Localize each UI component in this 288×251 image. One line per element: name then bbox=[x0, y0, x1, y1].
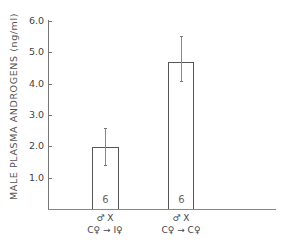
x-category-2: ♂ X C♀ → C♀ bbox=[151, 212, 211, 236]
y-tick bbox=[48, 146, 52, 147]
y-tick-label: 4.0 bbox=[22, 78, 44, 89]
x-category-1-line2: C♀ → I♀ bbox=[75, 224, 135, 236]
error-cap bbox=[180, 36, 183, 37]
y-tick bbox=[48, 178, 52, 179]
y-tick-label: 2.0 bbox=[22, 140, 44, 151]
x-axis bbox=[48, 209, 276, 210]
error-cap bbox=[104, 165, 107, 166]
y-tick-label: 5.0 bbox=[22, 46, 44, 57]
y-tick bbox=[48, 21, 52, 22]
n-label-1: 6 bbox=[92, 194, 119, 205]
x-category-1: ♂ X C♀ → I♀ bbox=[75, 212, 135, 236]
x-category-2-line2: C♀ → C♀ bbox=[151, 224, 211, 236]
x-category-1-line1: ♂ X bbox=[75, 212, 135, 224]
bar-chart: MALE PLASMA ANDROGENS (ng/ml) 1.0 2.0 3.… bbox=[0, 0, 288, 251]
bar-2 bbox=[168, 62, 194, 209]
error-cap bbox=[104, 128, 107, 129]
y-tick-label: 1.0 bbox=[22, 172, 44, 183]
error-bar-1 bbox=[105, 128, 106, 166]
y-tick-label: 3.0 bbox=[22, 109, 44, 120]
y-axis-label: MALE PLASMA ANDROGENS (ng/ml) bbox=[8, 13, 19, 200]
y-tick bbox=[48, 84, 52, 85]
error-cap bbox=[180, 81, 183, 82]
x-category-2-line1: ♂ X bbox=[151, 212, 211, 224]
y-tick bbox=[48, 115, 52, 116]
error-bar-2 bbox=[181, 36, 182, 82]
n-label-2: 6 bbox=[168, 194, 195, 205]
y-tick-label: 6.0 bbox=[22, 15, 44, 26]
y-tick bbox=[48, 52, 52, 53]
